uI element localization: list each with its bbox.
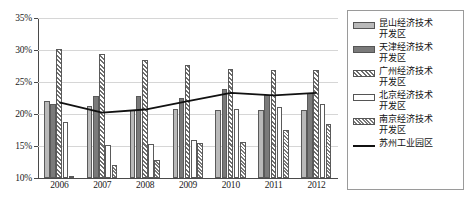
legend-item[interactable]: 昆山经济技术 开发区 xyxy=(353,18,460,39)
legend-item-label: 昆山经济技术 开发区 xyxy=(379,18,433,39)
legend-swatch-icon xyxy=(353,22,375,29)
legend-swatch-icon xyxy=(353,46,375,53)
legend-swatch-icon xyxy=(353,70,375,77)
x-axis-tick-label: 2008 xyxy=(136,180,154,190)
legend-item[interactable]: 天津经济技术 开发区 xyxy=(353,42,460,63)
legend-item[interactable]: 南京经济技术 开发区 xyxy=(353,114,460,135)
y-axis-tick-label: 20% xyxy=(15,109,32,119)
plot-area: 10%15%20%25%30%35% xyxy=(38,18,338,178)
legend-swatch-icon xyxy=(353,94,375,101)
x-axis xyxy=(38,178,338,179)
legend-item-label: 北京经济技术 开发区 xyxy=(379,90,433,111)
y-axis-tick xyxy=(34,178,38,179)
legend-item[interactable]: 北京经济技术 开发区 xyxy=(353,90,460,111)
y-axis-tick-label: 35% xyxy=(15,13,32,23)
x-axis-tick-label: 2010 xyxy=(222,180,240,190)
x-axis-tick-label: 2011 xyxy=(265,180,283,190)
x-axis-tick-label: 2006 xyxy=(50,180,68,190)
y-axis-tick-label: 15% xyxy=(15,141,32,151)
x-axis-tick-label: 2007 xyxy=(93,180,111,190)
legend-swatch-icon xyxy=(353,145,375,147)
x-axis-tick-label: 2012 xyxy=(307,180,325,190)
y-axis-tick-label: 10% xyxy=(15,173,32,183)
legend-item[interactable]: 广州经济技术 开发区 xyxy=(353,66,460,87)
legend-item[interactable]: 苏州工业园区 xyxy=(353,138,460,149)
legend-item-label: 苏州工业园区 xyxy=(379,138,433,149)
y-axis-tick-label: 30% xyxy=(15,45,32,55)
line-path xyxy=(59,93,316,113)
legend-swatch-icon xyxy=(353,118,375,125)
chart-container: 10%15%20%25%30%35% 200620072008200920102… xyxy=(0,0,464,212)
legend-item-label: 广州经济技术 开发区 xyxy=(379,66,433,87)
legend-item-label: 南京经济技术 开发区 xyxy=(379,114,433,135)
y-axis-tick-label: 25% xyxy=(15,77,32,87)
x-axis-labels: 2006200720082009201020112012 xyxy=(38,180,338,196)
legend-item-label: 天津经济技术 开发区 xyxy=(379,42,433,63)
x-axis-tick-label: 2009 xyxy=(179,180,197,190)
line-series-layer xyxy=(38,18,338,178)
legend: 昆山经济技术 开发区天津经济技术 开发区广州经济技术 开发区北京经济技术 开发区… xyxy=(347,10,464,190)
